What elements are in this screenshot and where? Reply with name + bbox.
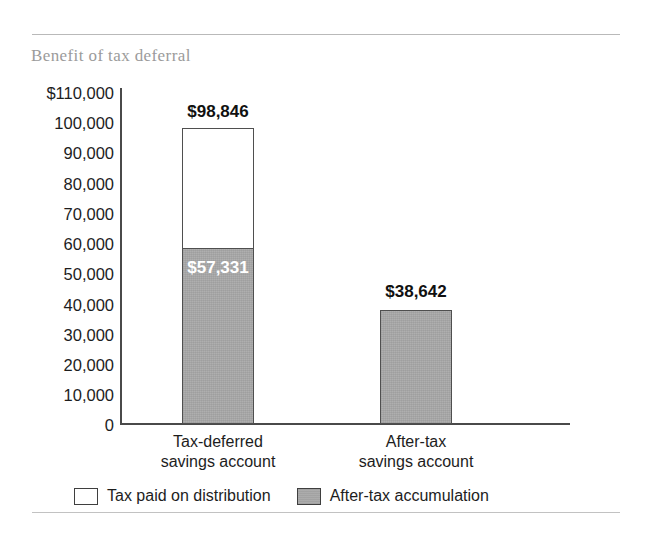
bar-segment-tax-paid[interactable] xyxy=(182,128,254,249)
chart-legend: Tax paid on distribution After-tax accum… xyxy=(74,484,584,508)
legend-swatch-white-icon xyxy=(74,488,98,505)
top-divider-rule xyxy=(32,34,620,35)
bar-segment-after-tax-accumulation[interactable]: $57,331 xyxy=(182,248,254,424)
bar-group-tax-deferred: $98,846 $57,331 xyxy=(182,88,254,424)
bar-total-label: $98,846 xyxy=(138,102,298,122)
bar-group-after-tax: $38,642 xyxy=(380,88,452,424)
y-tick-label: 0 xyxy=(8,417,114,434)
y-tick-label: 60,000 xyxy=(8,236,114,253)
bottom-divider-rule xyxy=(32,512,620,513)
category-label-line1: Tax-deferred xyxy=(173,433,263,450)
y-tick-label: 70,000 xyxy=(8,206,114,223)
bar-total-label: $38,642 xyxy=(336,282,496,302)
category-label-line2: savings account xyxy=(108,452,328,472)
y-tick-label: 80,000 xyxy=(8,176,114,193)
y-tick-label: 90,000 xyxy=(8,145,114,162)
y-tick-label: 30,000 xyxy=(8,327,114,344)
legend-label: After-tax accumulation xyxy=(330,487,489,505)
y-axis-tick-labels: $110,000 100,000 90,000 80,000 70,000 60… xyxy=(8,0,114,535)
y-tick-label: 40,000 xyxy=(8,297,114,314)
legend-label: Tax paid on distribution xyxy=(107,487,271,505)
y-tick-label: 50,000 xyxy=(8,266,114,283)
y-tick-label: 10,000 xyxy=(8,387,114,404)
category-label-line2: savings account xyxy=(306,452,526,472)
legend-swatch-gray-icon xyxy=(297,488,321,505)
legend-item-tax-paid[interactable]: Tax paid on distribution xyxy=(74,487,271,505)
y-tick-label: $110,000 xyxy=(8,85,114,102)
bar-segment-label: $57,331 xyxy=(183,258,253,278)
chart-figure: Benefit of tax deferral $110,000 100,000… xyxy=(0,0,654,535)
category-label-tax-deferred: Tax-deferred savings account xyxy=(108,432,328,472)
y-axis-line xyxy=(120,88,122,424)
bar-segment-after-tax-accumulation[interactable] xyxy=(380,310,452,424)
y-tick-label: 20,000 xyxy=(8,357,114,374)
y-tick-label: 100,000 xyxy=(8,115,114,132)
category-label-line1: After-tax xyxy=(386,433,446,450)
category-label-after-tax: After-tax savings account xyxy=(306,432,526,472)
legend-item-after-tax-accumulation[interactable]: After-tax accumulation xyxy=(297,487,489,505)
